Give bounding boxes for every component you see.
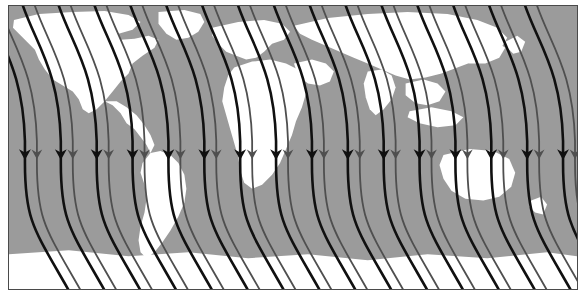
figure-root [0, 0, 587, 306]
map-panel [8, 5, 578, 290]
world-map-layer [9, 6, 577, 289]
